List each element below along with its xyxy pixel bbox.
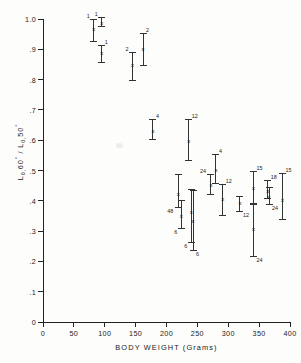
y-tick <box>38 231 43 232</box>
errorbar-cap-lower <box>178 228 185 229</box>
y-axis-title: L0,60° / L0,50° <box>14 92 26 212</box>
x-tick <box>135 322 136 327</box>
scatter-plot: 0.1.2.3.4.5.6.7.8.91.0 05010015020025030… <box>0 0 301 363</box>
errorbar-cap-upper <box>250 171 257 172</box>
y-tick-label: .8 <box>14 76 36 85</box>
sample-size-label: 1 <box>95 11 98 17</box>
data-point-errorbar: x <box>234 196 246 212</box>
y-tick <box>38 109 43 110</box>
data-point-errorbar: x <box>187 190 199 251</box>
errorbar-cap-upper <box>185 119 192 120</box>
y-tick-label: .2 <box>14 257 36 266</box>
data-point-errorbar: x <box>137 33 149 66</box>
x-tick-label: 200 <box>152 329 182 338</box>
errorbar-cap-upper <box>98 17 105 18</box>
sample-size-label: 4 <box>219 148 222 154</box>
errorbar-cap-lower <box>185 160 192 161</box>
x-tick <box>73 322 74 327</box>
data-point-errorbar: x <box>183 119 195 161</box>
errorbar-range-line <box>282 173 283 220</box>
errorbar-cap-upper <box>250 203 257 204</box>
data-point-marker: x <box>99 20 104 27</box>
x-tick-label: 50 <box>59 329 89 338</box>
data-point-marker: x <box>220 196 225 203</box>
data-point-marker: x <box>280 197 285 204</box>
sample-size-label: 12 <box>226 178 232 184</box>
errorbar-cap-upper <box>129 52 136 53</box>
data-point-errorbar: x <box>147 119 159 140</box>
y-tick <box>38 49 43 50</box>
data-point-marker: x <box>267 194 272 201</box>
errorbar-cap-upper <box>140 33 147 34</box>
y-tick <box>38 19 43 20</box>
y-tick <box>38 79 43 80</box>
data-point-marker: x <box>191 218 196 225</box>
x-tick <box>290 322 291 327</box>
sample-size-label: 15 <box>257 165 263 171</box>
x-tick <box>228 322 229 327</box>
errorbar-cap-upper <box>190 190 197 191</box>
errorbar-cap-upper <box>178 200 185 201</box>
data-point-errorbar: x <box>96 17 108 26</box>
x-tick-label: 0 <box>28 329 58 338</box>
sample-size-label: 6 <box>174 229 177 235</box>
x-tick <box>104 322 105 327</box>
errorbar-cap-upper <box>266 187 273 188</box>
data-point-errorbar: x <box>205 174 217 195</box>
x-tick-label: 300 <box>213 329 243 338</box>
y-tick <box>38 140 43 141</box>
data-point-marker: x <box>251 185 256 192</box>
sample-size-label: 1 <box>87 13 90 19</box>
errorbar-cap-upper <box>98 45 105 46</box>
data-point-marker: x <box>130 62 135 69</box>
errorbar-cap-upper <box>212 154 219 155</box>
y-tick <box>38 170 43 171</box>
y-tick-label: .3 <box>14 227 36 236</box>
y-tick-label: 0 <box>14 318 36 327</box>
plate-smudge-artifact <box>116 143 123 148</box>
x-axis-title: BODY WEIGHT (Grams) <box>43 343 290 352</box>
errorbar-cap-lower <box>207 194 214 195</box>
data-point-errorbar: x <box>248 171 260 206</box>
x-tick <box>43 322 44 327</box>
x-tick-label: 350 <box>244 329 274 338</box>
errorbar-cap-lower <box>149 139 156 140</box>
errorbar-cap-lower <box>279 219 286 220</box>
y-tick-label: 1.0 <box>14 15 36 24</box>
x-tick <box>259 322 260 327</box>
errorbar-cap-upper <box>264 180 271 181</box>
errorbar-cap-upper <box>175 174 182 175</box>
errorbar-cap-lower <box>129 80 136 81</box>
figure-container: 0.1.2.3.4.5.6.7.8.91.0 05010015020025030… <box>0 0 301 363</box>
x-tick <box>197 322 198 327</box>
data-point-marker: x <box>186 138 191 145</box>
x-tick-label: 100 <box>90 329 120 338</box>
y-tick <box>38 261 43 262</box>
sample-size-label: 6 <box>196 251 199 257</box>
sample-size-label: 48 <box>167 208 173 214</box>
data-point-errorbar: x <box>96 45 108 63</box>
x-tick-label: 250 <box>182 329 212 338</box>
x-tick-label: 150 <box>121 329 151 338</box>
y-tick <box>38 200 43 201</box>
data-point-marker: x <box>176 191 181 198</box>
errorbar-cap-upper <box>207 174 214 175</box>
data-point-marker: x <box>237 200 242 207</box>
errorbar-cap-lower <box>98 62 105 63</box>
data-point-marker: x <box>179 213 184 220</box>
sample-size-label: 4 <box>156 113 159 119</box>
errorbar-cap-lower <box>219 215 226 216</box>
sample-size-label: 1 <box>105 39 108 45</box>
errorbar-cap-lower <box>90 41 97 42</box>
data-point-errorbar: x <box>248 203 260 257</box>
sample-size-label: 24 <box>257 257 263 263</box>
y-tick <box>38 291 43 292</box>
data-point-marker: x <box>208 182 213 189</box>
sample-size-label: 2 <box>126 46 129 52</box>
sample-size-label: 12 <box>192 113 198 119</box>
x-tick-label: 400 <box>275 329 301 338</box>
sample-size-label: 2 <box>146 27 149 33</box>
sample-size-label: 24 <box>200 168 206 174</box>
x-tick <box>166 322 167 327</box>
data-point-marker: x <box>150 128 155 135</box>
